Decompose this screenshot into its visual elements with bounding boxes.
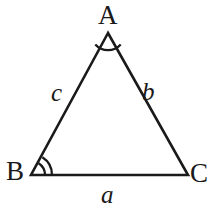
side-label-b: b (142, 79, 155, 104)
side-label-c: c (51, 80, 62, 105)
vertex-label-a: A (98, 2, 118, 29)
vertex-label-b: B (6, 158, 24, 185)
triangle-figure: A B C a b c (0, 0, 219, 221)
side-label-a: a (101, 182, 114, 207)
vertex-label-c: C (190, 160, 208, 187)
